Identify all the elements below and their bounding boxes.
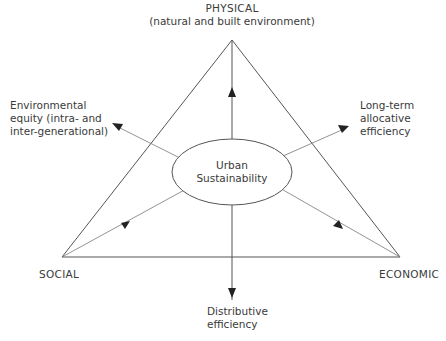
vertex-social-title: SOCIAL (39, 268, 79, 281)
outcome-line: efficiency (360, 125, 414, 138)
outcome-distributive-efficiency: Distributive efficiency (207, 305, 268, 331)
outcome-line: inter-generational) (10, 125, 108, 138)
arrow-lower-left-icon (121, 221, 130, 229)
center-label: Urban Sustainability (172, 159, 292, 185)
outcome-line: Distributive (207, 305, 268, 318)
center-line-2: Sustainability (172, 172, 292, 185)
outcome-environmental-equity: Environmental equity (intra- and inter-g… (10, 99, 108, 138)
outcome-line: efficiency (207, 318, 268, 331)
outcome-line: Long-term (360, 99, 414, 112)
outcome-line: allocative (360, 112, 414, 125)
vertex-economic-title: ECONOMIC (379, 268, 439, 281)
arrow-up-icon (228, 87, 236, 97)
arrow-down-icon (228, 288, 236, 298)
arrow-upper-left-icon (112, 123, 123, 131)
vertex-physical-subtitle: (natural and built environment) (132, 15, 332, 28)
arrow-upper-right-icon (338, 125, 349, 133)
outcome-allocative-efficiency: Long-term allocative efficiency (360, 99, 414, 138)
outcome-line: Environmental (10, 99, 108, 112)
arrow-lower-right-icon (333, 220, 343, 229)
allocative-efficiency-line (283, 129, 344, 156)
outcome-line: equity (intra- and (10, 112, 108, 125)
vertex-physical-title: PHYSICAL (132, 2, 332, 15)
environmental-equity-line (116, 126, 184, 160)
center-line-1: Urban (172, 159, 292, 172)
